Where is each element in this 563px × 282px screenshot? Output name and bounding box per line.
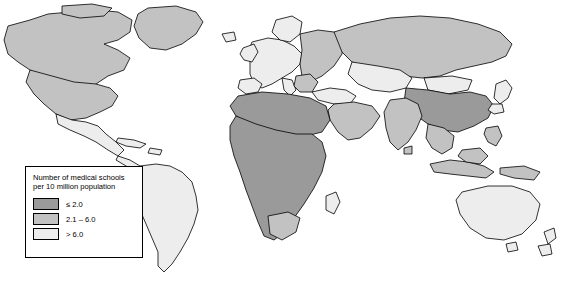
legend-swatch-class-1 [33, 198, 59, 210]
legend-swatch-class-3 [33, 228, 59, 240]
legend-row-class-1: ≤ 2.0 [33, 197, 136, 212]
legend-title-line2: per 10 million population [33, 182, 136, 191]
legend-label-class-2: 2.1 – 6.0 [66, 215, 96, 224]
map-legend: Number of medical schools per 10 million… [25, 166, 143, 258]
region-tasmania [506, 242, 518, 252]
legend-title-line1: Number of medical schools [33, 173, 136, 182]
legend-swatch-class-2 [33, 213, 59, 225]
world-map-figure: Number of medical schools per 10 million… [0, 0, 563, 282]
legend-row-class-2: 2.1 – 6.0 [33, 212, 136, 227]
legend-label-class-3: > 6.0 [66, 230, 83, 239]
legend-label-class-1: ≤ 2.0 [66, 200, 83, 209]
legend-row-class-3: > 6.0 [33, 227, 136, 242]
region-canada-arctic-islands [62, 4, 112, 18]
legend-class-list: ≤ 2.0 2.1 – 6.0 > 6.0 [33, 197, 136, 242]
